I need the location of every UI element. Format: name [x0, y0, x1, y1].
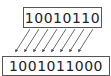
output-bits-box: 1001011000: [2, 56, 110, 76]
arrow-icons: [16, 29, 93, 51]
output-bits-label: 1001011000: [9, 58, 103, 74]
